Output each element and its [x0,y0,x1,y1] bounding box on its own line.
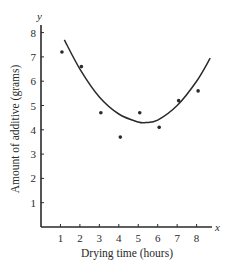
x-tick-label: 8 [194,232,200,244]
data-points [60,50,200,139]
y-axis-variable: y [36,10,42,22]
y-axis-title: Amount of additive (grams) [9,64,22,193]
data-point [196,89,200,93]
y-tick-label: 5 [31,100,37,112]
y-tick-label: 7 [31,51,37,63]
y-tick-label: 4 [31,124,37,136]
x-tick-label: 3 [97,232,103,244]
axes [41,25,212,227]
x-tick-label: 5 [136,232,142,244]
y-tick-label: 2 [31,172,37,184]
x-tick-label: 7 [174,232,180,244]
x-axis-variable: x [214,221,220,233]
y-tick-label: 3 [31,148,37,160]
y-tick-label: 1 [31,197,37,209]
x-tick-label: 1 [58,232,64,244]
x-tick-label: 2 [77,232,83,244]
x-tick-label: 6 [155,232,161,244]
y-tick-label: 8 [31,27,37,39]
scatter-chart: 1234567812345678 y x Drying time (hours)… [0,0,229,269]
fit-curve [64,40,210,123]
data-point [119,135,123,139]
data-point [60,50,64,54]
x-axis-title: Drying time (hours) [81,247,173,260]
data-point [157,126,161,130]
x-tick-label: 4 [116,232,122,244]
data-point [80,65,84,69]
y-tick-label: 6 [31,75,37,87]
fit-curve-path [64,40,210,123]
data-point [138,111,142,115]
ticks: 1234567812345678 [31,27,200,244]
data-point [99,111,103,115]
data-point [177,99,181,103]
